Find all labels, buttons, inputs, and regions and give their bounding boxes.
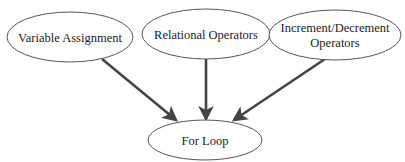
ellipse-shape (269, 10, 401, 60)
node-relational-operators: Relational Operators (142, 9, 270, 59)
arrow-increment-decrement-operators-to-for-loop (234, 59, 325, 120)
node-label: Relational Operators (154, 28, 258, 42)
node-label: Operators (310, 36, 359, 50)
edges-layer (102, 59, 325, 120)
node-label: Variable Assignment (18, 31, 122, 45)
node-for-loop: For Loop (148, 120, 262, 160)
node-label: Increment/Decrement (281, 21, 390, 35)
node-label: For Loop (182, 134, 229, 148)
node-variable-assignment: Variable Assignment (7, 12, 133, 62)
node-increment-decrement-operators: Increment/DecrementOperators (269, 10, 401, 60)
diagram-canvas: Variable AssignmentRelational OperatorsI… (0, 0, 405, 162)
arrow-variable-assignment-to-for-loop (102, 59, 176, 120)
nodes-layer: Variable AssignmentRelational OperatorsI… (7, 9, 401, 160)
